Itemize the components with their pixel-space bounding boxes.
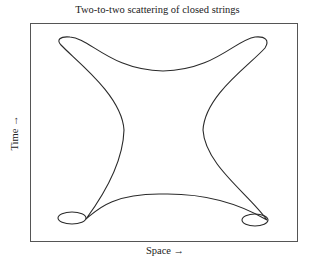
x-axis-label: Space → — [0, 245, 315, 256]
y-axis-label: Time → — [9, 116, 20, 151]
incoming-string-right — [242, 214, 268, 226]
scattering-diagram — [0, 0, 315, 269]
incoming-string-left — [58, 212, 86, 224]
worldsheet-outline — [59, 37, 267, 220]
